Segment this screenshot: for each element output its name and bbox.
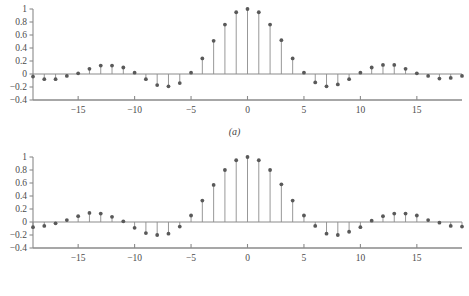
y-axis-tick-label: 0.2 (15, 204, 27, 214)
stem-marker (88, 211, 92, 215)
stem-marker (460, 225, 464, 229)
x-axis-tick-label: −15 (71, 105, 86, 115)
stem-marker (54, 221, 58, 225)
stem-marker (155, 83, 159, 87)
x-axis-tick-label: 15 (412, 253, 422, 263)
stem-marker (31, 225, 35, 229)
stem-marker (76, 214, 80, 218)
stem-marker (189, 71, 193, 75)
x-axis-tick-label: 15 (412, 105, 422, 115)
stem-marker (370, 66, 374, 70)
stem-marker (110, 215, 114, 219)
y-axis-tick-label: 1 (22, 4, 27, 14)
stem-marker (144, 77, 148, 81)
stem-marker (438, 77, 442, 81)
stem-marker (178, 81, 182, 85)
stem-marker (392, 63, 396, 67)
stem-marker (200, 57, 204, 61)
stem-marker (381, 63, 385, 67)
stem-marker (212, 39, 216, 43)
panel-a: −0.4−0.200.20.40.60.81−15−10−5051015 (a) (0, 0, 469, 148)
stem-chart-a: −0.4−0.200.20.40.60.81−15−10−5051015 (0, 0, 469, 130)
x-axis-tick-label: −15 (71, 253, 86, 263)
stem-marker (42, 77, 46, 81)
stem-marker (234, 10, 238, 14)
stem-marker (257, 10, 261, 14)
stem-marker (415, 71, 419, 75)
y-axis-tick-label: 0.4 (15, 43, 27, 53)
stem-marker (313, 224, 317, 228)
stem-marker (144, 231, 148, 235)
stem-marker (223, 23, 227, 27)
stem-marker (189, 214, 193, 218)
stem-marker (404, 67, 408, 71)
panel-b: −0.4−0.200.20.40.60.81−15−10−5051015 (b) (0, 148, 469, 296)
stem-marker (279, 182, 283, 186)
x-axis-tick-label: 10 (356, 105, 366, 115)
y-axis-tick-label: −0.4 (10, 243, 27, 253)
stem-marker (246, 155, 250, 159)
stem-marker (358, 71, 362, 75)
stem-chart-b: −0.4−0.200.20.40.60.81−15−10−5051015 (0, 148, 469, 278)
stem-marker (460, 74, 464, 78)
y-axis-tick-label: −0.4 (10, 95, 27, 105)
stem-marker (167, 232, 171, 236)
stem-marker (302, 71, 306, 75)
stem-marker (246, 7, 250, 11)
stem-marker (99, 212, 103, 216)
x-axis-tick-label: 10 (356, 253, 366, 263)
stem-marker (121, 219, 125, 223)
y-axis-tick-label: 0 (22, 217, 27, 227)
stem-marker (121, 66, 125, 70)
y-axis-tick-label: 1 (22, 152, 27, 162)
stem-marker (268, 23, 272, 27)
stem-marker (76, 71, 80, 75)
stem-marker (42, 224, 46, 228)
y-axis-tick-label: 0.6 (15, 30, 27, 40)
stem-marker (347, 230, 351, 234)
stem-marker (133, 226, 137, 230)
stem-marker (200, 199, 204, 203)
stem-marker (404, 212, 408, 216)
stem-marker (358, 225, 362, 229)
stem-marker (54, 77, 58, 81)
y-axis-tick-label: 0 (22, 69, 27, 79)
x-axis-tick-label: −5 (186, 105, 196, 115)
stem-marker (426, 74, 430, 78)
stem-marker (381, 214, 385, 218)
x-axis-tick-label: −5 (186, 253, 196, 263)
stem-marker (99, 64, 103, 68)
stem-marker (268, 168, 272, 172)
y-axis-tick-label: 0.8 (15, 17, 27, 27)
y-axis-tick-label: 0.8 (15, 165, 27, 175)
x-axis-tick-label: −10 (127, 253, 142, 263)
stem-marker (133, 71, 137, 75)
stem-marker (291, 199, 295, 203)
panel-a-caption: (a) (0, 126, 469, 137)
stem-series (31, 155, 464, 237)
stem-marker (313, 81, 317, 85)
x-axis-tick-label: 0 (245, 105, 250, 115)
stem-marker (178, 225, 182, 229)
stem-marker (65, 74, 69, 78)
stem-marker (302, 214, 306, 218)
stem-marker (257, 158, 261, 162)
y-axis-tick-label: 0.4 (15, 191, 27, 201)
x-axis-tick-label: 5 (302, 105, 307, 115)
stem-marker (223, 168, 227, 172)
stem-marker (392, 212, 396, 216)
y-axis-tick-label: −0.2 (10, 230, 27, 240)
y-axis-tick-label: −0.2 (10, 82, 27, 92)
stem-plot-figure: −0.4−0.200.20.40.60.81−15−10−5051015 (a)… (0, 0, 469, 296)
stem-marker (279, 38, 283, 42)
stem-marker (347, 77, 351, 81)
stem-marker (291, 57, 295, 61)
x-axis-tick-label: 5 (302, 253, 307, 263)
x-axis-tick-label: 0 (245, 253, 250, 263)
stem-marker (65, 218, 69, 222)
stem-marker (212, 183, 216, 187)
stem-marker (449, 76, 453, 80)
stem-marker (415, 214, 419, 218)
stem-marker (234, 158, 238, 162)
stem-marker (110, 64, 114, 68)
